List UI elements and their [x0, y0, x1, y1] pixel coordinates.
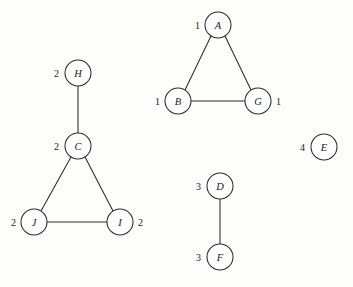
node-j[interactable]: J2 — [11, 209, 47, 235]
edge-c-j — [41, 157, 71, 211]
edge-a-b — [185, 36, 211, 90]
node-annotation-c: 2 — [54, 141, 59, 152]
node-label-i: I — [117, 217, 122, 228]
node-c[interactable]: C2 — [54, 133, 91, 159]
nodes-layer: A1B1G1H2C2J2I2D3F3E4 — [11, 12, 337, 270]
diagram-canvas: A1B1G1H2C2J2I2D3F3E4 — [0, 0, 353, 287]
edge-c-i — [85, 157, 113, 211]
node-annotation-j: 2 — [11, 217, 16, 228]
node-annotation-i: 2 — [138, 217, 143, 228]
node-g[interactable]: G1 — [245, 88, 281, 114]
node-annotation-d: 3 — [196, 181, 201, 192]
node-label-e: E — [320, 142, 328, 153]
node-i[interactable]: I2 — [107, 209, 143, 235]
node-label-h: H — [73, 68, 83, 79]
edge-a-g — [225, 36, 251, 90]
node-label-b: B — [175, 96, 182, 107]
node-annotation-a: 1 — [195, 20, 200, 31]
node-label-c: C — [74, 141, 82, 152]
node-h[interactable]: H2 — [54, 60, 91, 86]
node-label-a: A — [214, 20, 222, 31]
node-label-g: G — [254, 96, 262, 107]
node-b[interactable]: B1 — [155, 88, 191, 114]
node-f[interactable]: F3 — [196, 244, 233, 270]
node-annotation-b: 1 — [155, 96, 160, 107]
node-label-f: F — [216, 252, 224, 263]
node-d[interactable]: D3 — [196, 173, 233, 199]
graph-diagram: A1B1G1H2C2J2I2D3F3E4 — [0, 0, 353, 287]
node-annotation-e: 4 — [300, 142, 305, 153]
node-a[interactable]: A1 — [195, 12, 231, 38]
node-e[interactable]: E4 — [300, 134, 337, 160]
node-annotation-f: 3 — [196, 252, 201, 263]
node-annotation-g: 1 — [276, 96, 281, 107]
node-annotation-h: 2 — [54, 68, 59, 79]
node-label-d: D — [215, 181, 224, 192]
